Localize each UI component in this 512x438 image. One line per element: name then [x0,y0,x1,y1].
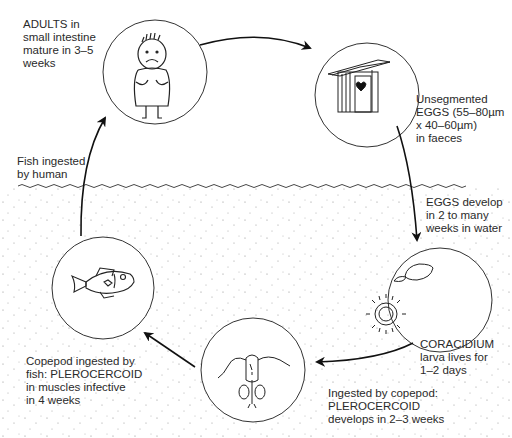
label-copepod: Ingested by copepod: PLEROCERCOID develo… [328,387,444,426]
label-fish-ingested: Fish ingested by human [17,155,85,181]
stage-circle-fish [52,237,154,339]
label-eggs-develop: EGGS develop in 2 to many weeks in water [426,196,503,235]
stage-circle-copepod [201,318,305,422]
water-surface-line [18,185,466,188]
label-coracidium: CORACIDIUM larva lives for 1–2 days [420,338,494,377]
arrow-adults-to-eggs [200,37,310,48]
label-fish: Copepod ingested by fish: PLEROCERCOID i… [26,355,142,407]
label-adults: ADULTS in small intestine mature in 3–5 … [23,18,96,70]
label-eggs: Unsegmented EGGS (55–80µm x 40–60µm) in … [416,93,504,145]
stage-circle-eggs [315,43,419,147]
stage-circle-adults [103,20,207,124]
